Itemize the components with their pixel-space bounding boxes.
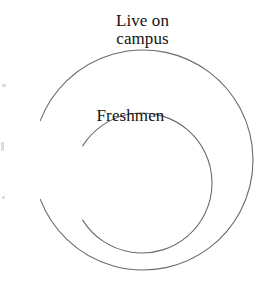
outer-circle-label: Live on campus — [9, 12, 267, 49]
inner-circle-arc — [83, 113, 212, 253]
scan-artifact — [2, 84, 6, 87]
scan-artifact — [2, 196, 5, 199]
scan-artifact — [1, 142, 4, 151]
inner-circle-label: Freshmen — [0, 107, 264, 125]
outer-circle-arc — [40, 50, 253, 270]
euler-diagram-figure: Live on campus Freshmen — [0, 0, 267, 283]
